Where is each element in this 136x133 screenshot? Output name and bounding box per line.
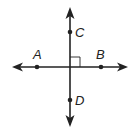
point-d <box>68 98 73 103</box>
label-a: A <box>32 47 42 62</box>
label-d: D <box>75 93 84 108</box>
label-c: C <box>75 25 85 40</box>
perpendicular-lines-diagram: A B C D <box>0 0 136 133</box>
point-b <box>99 65 104 70</box>
point-c <box>68 30 73 35</box>
label-b: B <box>96 47 105 62</box>
point-a <box>35 65 40 70</box>
right-angle-mark <box>70 57 80 67</box>
